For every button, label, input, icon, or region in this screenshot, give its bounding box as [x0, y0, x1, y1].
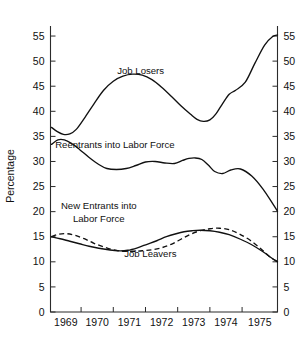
- y-tick-label-left: 20: [33, 205, 45, 217]
- x-tick-label: 1970: [86, 316, 110, 328]
- y-tick-label-left: 35: [33, 130, 45, 142]
- line-chart: Percentage 00551010151520202525303035354…: [0, 0, 304, 356]
- y-tick-label-left: 15: [33, 230, 45, 242]
- y-tick-label-right: 10: [284, 255, 296, 267]
- x-tick-label: 1974: [214, 316, 238, 328]
- y-tick-label-right: 30: [284, 155, 296, 167]
- y-tick-label-right: 20: [284, 205, 296, 217]
- y-tick-label-right: 25: [284, 180, 296, 192]
- y-tick-label-left: 30: [33, 155, 45, 167]
- x-tick-label: 1972: [150, 316, 174, 328]
- y-tick-label-right: 45: [284, 80, 296, 92]
- y-axis-title-group: Percentage: [4, 149, 16, 203]
- job-losers-label: Job Losers: [117, 65, 164, 76]
- reentrants-label: Reentrants into Labor Force: [55, 139, 174, 150]
- y-tick-label-left: 50: [33, 55, 45, 67]
- y-tick-label-right: 55: [284, 30, 296, 42]
- x-tick-label: 1969: [54, 316, 78, 328]
- y-axis-title: Percentage: [4, 149, 16, 203]
- y-tick-label-left: 5: [39, 281, 45, 293]
- y-tick-label-left: 45: [33, 80, 45, 92]
- x-tick-label: 1971: [118, 316, 142, 328]
- y-tick-label-left: 0: [39, 306, 45, 318]
- y-tick-label-left: 55: [33, 30, 45, 42]
- y-tick-label-right: 50: [284, 55, 296, 67]
- y-tick-label-left: 40: [33, 105, 45, 117]
- y-tick-label-left: 25: [33, 180, 45, 192]
- new-entrants-label-line1: New Entrants into: [61, 200, 137, 211]
- y-tick-label-left: 10: [33, 255, 45, 267]
- series-line-job-losers: [51, 35, 277, 135]
- y-tick-label-right: 40: [284, 105, 296, 117]
- y-tick-label-right: 5: [284, 281, 290, 293]
- x-tick-label: 1973: [182, 316, 206, 328]
- job-leavers-label: Job Leavers: [124, 248, 176, 259]
- new-entrants-label-line2: Labor Force: [73, 213, 125, 224]
- x-tick-label: 1975: [248, 316, 272, 328]
- chart-container: Percentage 00551010151520202525303035354…: [0, 0, 304, 356]
- y-tick-label-right: 0: [284, 306, 290, 318]
- y-tick-label-right: 35: [284, 130, 296, 142]
- y-tick-label-right: 15: [284, 230, 296, 242]
